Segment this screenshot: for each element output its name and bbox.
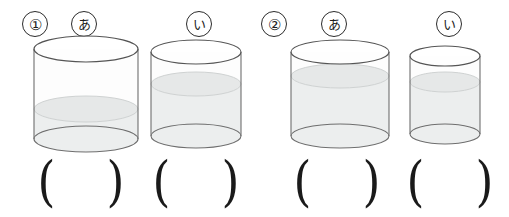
open-paren: ( xyxy=(294,155,312,209)
problem-number-1: ① xyxy=(22,11,48,37)
worksheet-canvas: ① あ い xyxy=(0,0,509,217)
problem-number-2: ② xyxy=(261,11,287,37)
close-paren: ) xyxy=(476,155,494,209)
container-label-1-i: い xyxy=(186,11,212,37)
answer-bracket-2-a[interactable]: ( ) xyxy=(292,158,382,206)
container-label-2-a: あ xyxy=(321,11,347,37)
container-label-2-i: い xyxy=(436,11,462,37)
container-1-a xyxy=(30,36,142,152)
open-paren: ( xyxy=(38,155,56,209)
answer-bracket-1-a[interactable]: ( ) xyxy=(36,158,126,206)
open-paren: ( xyxy=(153,155,171,209)
container-1-i xyxy=(147,40,245,150)
container-label-1-a: あ xyxy=(71,11,97,37)
close-paren: ) xyxy=(363,155,381,209)
close-paren: ) xyxy=(107,155,125,209)
container-2-a xyxy=(287,40,393,150)
open-paren: ( xyxy=(407,155,425,209)
answer-bracket-2-i[interactable]: ( ) xyxy=(405,158,495,206)
container-2-i xyxy=(406,46,484,148)
answer-bracket-1-i[interactable]: ( ) xyxy=(151,158,241,206)
close-paren: ) xyxy=(222,155,240,209)
